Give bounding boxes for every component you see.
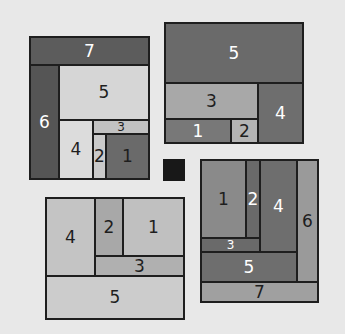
block-3: 3	[164, 82, 259, 120]
block-4: 4	[259, 159, 298, 253]
block-1: 1	[164, 118, 232, 144]
block-7: 7	[200, 281, 319, 303]
block-1: 1	[200, 159, 247, 239]
block-5: 5	[58, 64, 150, 121]
center-black-square	[163, 159, 185, 181]
block-6: 6	[296, 159, 319, 283]
block-1: 1	[105, 133, 150, 180]
block-2: 2	[94, 197, 124, 257]
block-5: 5	[45, 275, 185, 320]
block-2: 2	[230, 118, 259, 144]
block-7: 7	[29, 36, 150, 66]
block-5: 5	[164, 22, 304, 84]
block-4: 4	[45, 197, 96, 277]
block-4: 4	[257, 82, 304, 144]
block-5: 5	[200, 251, 298, 283]
block-1: 1	[122, 197, 185, 257]
block-4: 4	[58, 119, 94, 180]
block-3: 3	[94, 255, 185, 277]
block-6: 6	[29, 64, 60, 180]
